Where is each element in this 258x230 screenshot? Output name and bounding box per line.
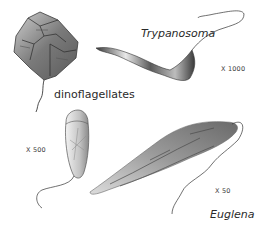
small-flagellate-drawing [37, 110, 89, 208]
protist-illustration: dinoflagellates Trypanosoma X 1000 X 500… [0, 0, 258, 230]
illustration-art [0, 0, 258, 230]
small-flagellate-magnification: X 500 [26, 146, 46, 154]
euglena-label: Euglena [210, 208, 254, 221]
euglena-magnification: X 50 [215, 187, 231, 195]
trypanosoma-label: Trypanosoma [141, 27, 215, 40]
dinoflagellates-label: dinoflagellates [54, 88, 135, 101]
trypanosoma-magnification: X 1000 [221, 65, 245, 73]
euglena-drawing [90, 122, 243, 214]
